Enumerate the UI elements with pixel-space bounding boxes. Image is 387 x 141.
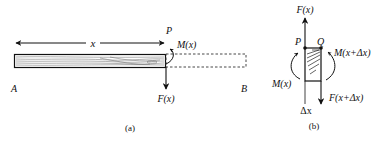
force-label-a: F(x): [156, 93, 175, 105]
wooden-beam: [15, 55, 166, 68]
x-label: x: [90, 37, 96, 49]
caption-a: (a): [125, 123, 135, 133]
point-p-label-b: P: [294, 36, 301, 47]
delta-x-label: Δx: [300, 105, 311, 116]
moment-label-a: M(x): [176, 39, 197, 51]
moment-arrow-a: [166, 49, 173, 64]
force-label-top-b: F(x): [295, 4, 314, 16]
beam-diagram: x P M(x) F(x) A B (a): [0, 0, 387, 141]
point-p-label-a: P: [165, 25, 172, 36]
caption-b: (b): [309, 121, 320, 131]
end-b-label: B: [241, 83, 247, 94]
beam-element: [303, 46, 323, 81]
force-label-bottom-b: F(x+Δx): [328, 92, 364, 104]
point-q-label-b: Q: [317, 36, 325, 47]
dashed-beam-outline: [166, 54, 246, 67]
end-a-label: A: [10, 83, 18, 94]
moment-label-left-b: M(x): [271, 78, 292, 90]
moment-label-right-b: M(x+Δx): [333, 47, 371, 59]
panel-b: F(x) P Q M(x) M(x+Δx) F(x+Δx) Δx (b): [271, 4, 371, 131]
panel-a: x P M(x) F(x) A B (a): [10, 25, 247, 133]
moment-arrow-left-b: [291, 53, 300, 79]
